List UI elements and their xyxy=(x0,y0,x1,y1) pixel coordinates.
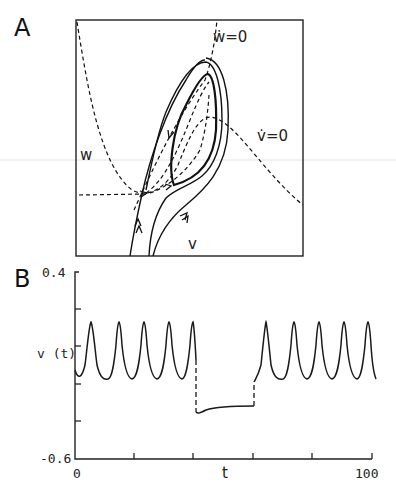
arrow-up-icon xyxy=(136,226,142,233)
panel-b: B 0.4 -0.6 0 100 v (t) t xyxy=(14,265,378,482)
y-tick-top: 0.4 xyxy=(42,265,66,280)
y-axis-label: v (t) xyxy=(37,346,76,361)
arrow-right-icon xyxy=(165,184,171,190)
x-tick-left: 0 xyxy=(73,466,81,481)
panel-a: A ẇ=0 v̇=0 w v xyxy=(14,14,303,256)
w-nullcline xyxy=(134,20,217,210)
axes xyxy=(75,272,372,459)
v-nullcline-lower xyxy=(79,194,146,195)
figure: A ẇ=0 v̇=0 w v xyxy=(0,0,396,499)
separatrix-inner xyxy=(146,82,209,193)
w-nullcline-label: ẇ=0 xyxy=(213,28,247,46)
outer-trajectory xyxy=(146,62,222,256)
x-axis-label: t xyxy=(222,464,228,482)
y-tick-bottom: -0.6 xyxy=(40,451,71,466)
x-tick-right: 100 xyxy=(355,466,378,481)
v-nullcline-label: v̇=0 xyxy=(257,127,288,145)
voltage-trace-1 xyxy=(75,322,196,379)
y-ticks xyxy=(75,309,81,421)
w-axis-label: w xyxy=(80,146,92,164)
panel-b-letter: B xyxy=(14,265,30,293)
panel-a-letter: A xyxy=(14,14,31,42)
x-ticks xyxy=(134,453,372,459)
incoming-trajectory-right xyxy=(153,58,228,256)
flow-arrows xyxy=(135,130,188,233)
voltage-trace-silent xyxy=(196,406,254,413)
v-axis-label: v xyxy=(188,235,197,253)
voltage-trace-2 xyxy=(254,322,376,382)
